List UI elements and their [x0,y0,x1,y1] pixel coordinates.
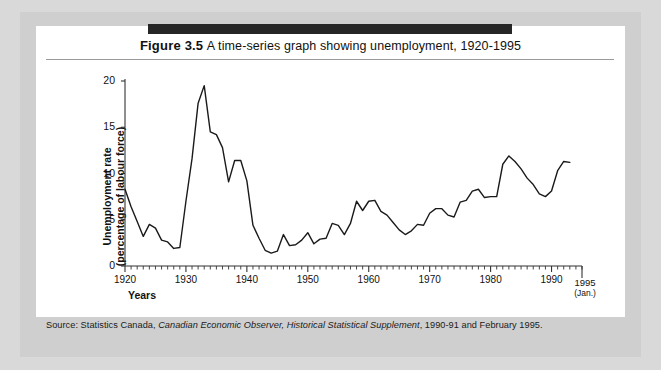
figure-container: Figure 3.5 A time-series graph showing u… [0,0,661,370]
source-italic: Canadian Economic Observer, Historical S… [158,320,419,330]
axis-ticks [121,81,582,278]
unemployment-rate-line [125,86,570,253]
source-prefix: Source: Statistics Canada, [46,320,158,330]
source-tail: , 1990-91 and February 1995. [420,320,543,330]
figure-source: Source: Statistics Canada, Canadian Econ… [46,320,626,330]
line-chart [0,0,661,370]
axes [125,79,582,266]
